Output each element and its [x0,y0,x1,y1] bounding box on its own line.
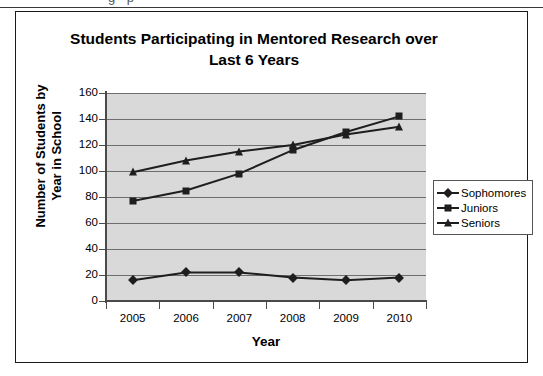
data-point-juniors-2006 [183,187,190,194]
series-line-juniors [133,116,400,200]
series-line-seniors [133,127,400,173]
data-point-juniors-2005 [129,197,136,204]
data-point-juniors-2007 [236,170,243,177]
data-point-juniors-2010 [396,113,403,120]
data-point-seniors-2006 [182,156,190,164]
scan-rule-line [0,7,543,8]
scan-cutoff-text: g p [108,0,138,5]
data-point-seniors-2007 [235,147,243,155]
data-point-seniors-2010 [395,122,403,130]
series-lines [16,12,529,364]
data-point-seniors-2005 [129,168,137,176]
data-point-seniors-2008 [289,141,297,149]
series-line-sophomores [133,272,400,280]
scan-edge-artifact: g p [0,0,543,9]
data-point-seniors-2009 [342,130,350,138]
chart-figure-frame: Students Participating in Mentored Resea… [15,11,528,363]
